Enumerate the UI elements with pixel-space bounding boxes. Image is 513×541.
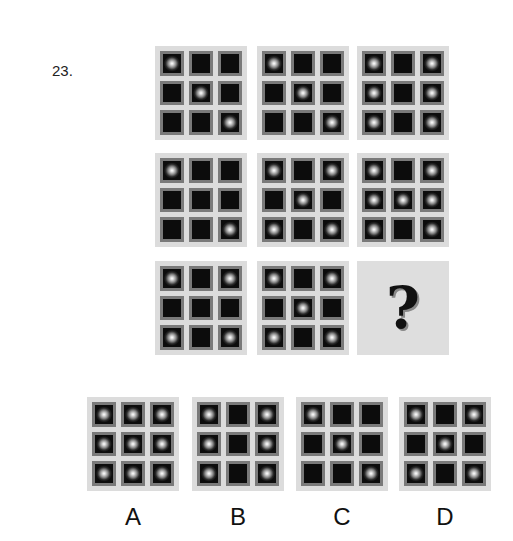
dark-square-icon (294, 161, 312, 180)
light-dot-icon (333, 435, 351, 454)
option-a-label[interactable]: A (87, 503, 179, 531)
dot-cell-dark (160, 110, 184, 135)
dot-cell-dark (404, 432, 428, 457)
light-dot-icon (365, 54, 383, 73)
matrix-tile-r2-c1 (155, 153, 247, 247)
dot-cell-lit (255, 432, 279, 457)
light-dot-icon (365, 84, 383, 103)
dark-square-icon (265, 191, 283, 210)
light-dot-icon (265, 220, 283, 239)
light-dot-icon (323, 269, 341, 288)
light-dot-icon (163, 161, 181, 180)
light-dot-icon (221, 113, 239, 132)
option-b-label[interactable]: B (192, 503, 284, 531)
dark-square-icon (394, 220, 412, 239)
light-dot-icon (323, 161, 341, 180)
dot-cell-lit (197, 461, 221, 486)
option-d-label[interactable]: D (399, 503, 491, 531)
dark-square-icon (394, 54, 412, 73)
dot-cell-dark (391, 158, 415, 183)
dark-square-icon (323, 84, 341, 103)
dot-cell-lit (262, 266, 286, 291)
dot-cell-lit (362, 110, 386, 135)
matrix-tile-r1-c3 (357, 46, 449, 140)
dot-cell-dark (391, 51, 415, 76)
dark-square-icon (192, 161, 210, 180)
dot-cell-dark (160, 217, 184, 242)
dot-cell-lit (420, 110, 444, 135)
question-mark-icon: ? (386, 274, 420, 342)
light-dot-icon (95, 405, 113, 424)
dark-square-icon (221, 54, 239, 73)
dark-square-icon (163, 191, 181, 210)
dark-square-icon (192, 191, 210, 210)
dot-cell-dark (262, 296, 286, 321)
dot-cell-dark (320, 51, 344, 76)
dark-square-icon (294, 113, 312, 132)
light-dot-icon (221, 269, 239, 288)
dot-cell-dark (291, 110, 315, 135)
dot-cell-dark (160, 188, 184, 213)
dot-cell-lit (291, 296, 315, 321)
dot-cell-lit (420, 158, 444, 183)
dark-square-icon (304, 435, 322, 454)
dot-cell-lit (404, 461, 428, 486)
light-dot-icon (124, 435, 142, 454)
dot-cell-lit (92, 461, 116, 486)
light-dot-icon (221, 328, 239, 347)
dot-cell-lit (262, 51, 286, 76)
dark-square-icon (229, 435, 247, 454)
dark-square-icon (192, 113, 210, 132)
dark-square-icon (304, 464, 322, 483)
dark-square-icon (362, 405, 380, 424)
dot-cell-lit (420, 81, 444, 106)
dot-cell-lit (218, 110, 242, 135)
option-b-tile[interactable] (192, 397, 284, 491)
dot-cell-lit (420, 188, 444, 213)
matrix-tile-r3-c1 (155, 261, 247, 355)
light-dot-icon (394, 191, 412, 210)
dot-cell-lit (218, 325, 242, 350)
option-a-tile[interactable] (87, 397, 179, 491)
dark-square-icon (221, 84, 239, 103)
dot-cell-dark (291, 158, 315, 183)
light-dot-icon (465, 464, 483, 483)
dot-cell-dark (291, 266, 315, 291)
dot-cell-lit (462, 402, 486, 427)
dot-cell-dark (189, 158, 213, 183)
dark-square-icon (221, 161, 239, 180)
dot-cell-dark (218, 81, 242, 106)
option-d-tile[interactable] (399, 397, 491, 491)
dot-cell-dark (189, 51, 213, 76)
light-dot-icon (407, 464, 425, 483)
dot-cell-lit (255, 461, 279, 486)
dot-cell-lit (255, 402, 279, 427)
dark-square-icon (265, 113, 283, 132)
dot-cell-lit (433, 432, 457, 457)
light-dot-icon (265, 269, 283, 288)
dark-square-icon (362, 435, 380, 454)
dot-cell-dark (391, 81, 415, 106)
light-dot-icon (153, 405, 171, 424)
dot-cell-lit (160, 325, 184, 350)
dark-square-icon (294, 54, 312, 73)
dot-cell-lit (291, 188, 315, 213)
dot-cell-lit (420, 217, 444, 242)
dot-cell-lit (320, 325, 344, 350)
light-dot-icon (163, 54, 181, 73)
dot-cell-dark (433, 402, 457, 427)
light-dot-icon (192, 84, 210, 103)
light-dot-icon (163, 269, 181, 288)
light-dot-icon (258, 435, 276, 454)
dark-square-icon (163, 84, 181, 103)
dot-cell-lit (362, 158, 386, 183)
dark-square-icon (323, 54, 341, 73)
question-number: 23. (52, 62, 73, 79)
dot-cell-dark (226, 432, 250, 457)
dot-cell-lit (189, 81, 213, 106)
option-c-label[interactable]: C (296, 503, 388, 531)
light-dot-icon (163, 328, 181, 347)
dot-cell-lit (262, 325, 286, 350)
option-c-tile[interactable] (296, 397, 388, 491)
missing-tile: ? (357, 261, 449, 355)
